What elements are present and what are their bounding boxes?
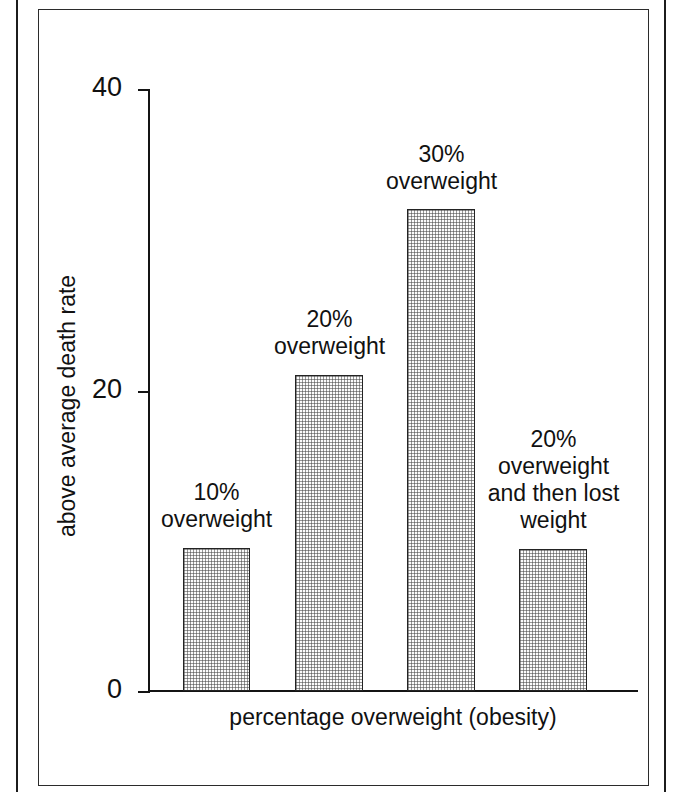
bar-label-line-2: overweight	[359, 168, 524, 195]
bar-label-line-1: 30%	[359, 141, 524, 168]
y-tick-label-0: 0	[107, 676, 122, 703]
y-axis-title: above average death rate	[54, 277, 80, 537]
y-tick-label-40: 40	[92, 74, 122, 101]
bar-label-line-4: weight	[461, 507, 646, 534]
bar-20-percent-overweight-then-lost	[519, 549, 587, 691]
plot-area: 40 20 0 above average death rate 10% ove…	[1, 1, 673, 792]
bar-label-line-2: overweight	[247, 333, 412, 360]
bar-label-line-1: 20%	[461, 426, 646, 453]
figure-page: 40 20 0 above average death rate 10% ove…	[0, 0, 673, 792]
y-tick-label-20: 20	[92, 376, 122, 403]
bar-label-20-percent-overweight: 20% overweight	[247, 306, 412, 360]
bar-chart-figure-frame: 40 20 0 above average death rate 10% ove…	[38, 9, 649, 786]
bar-label-line-3: and then lost	[461, 480, 646, 507]
bar-label-line-2: overweight	[461, 453, 646, 480]
bar-label-10-percent-overweight: 10% overweight	[134, 479, 299, 533]
bar-label-line-1: 20%	[247, 306, 412, 333]
y-tick-40	[138, 89, 149, 91]
y-tick-0	[138, 691, 149, 693]
bar-label-line-2: overweight	[134, 506, 299, 533]
bar-label-20-percent-overweight-then-lost: 20% overweight and then lost weight	[461, 426, 646, 534]
x-axis-title: percentage overweight (obesity)	[148, 704, 638, 731]
bar-label-30-percent-overweight: 30% overweight	[359, 141, 524, 195]
bar-label-line-1: 10%	[134, 479, 299, 506]
y-tick-20	[138, 391, 149, 393]
bar-10-percent-overweight	[183, 548, 250, 691]
bar-20-percent-overweight	[295, 375, 363, 691]
